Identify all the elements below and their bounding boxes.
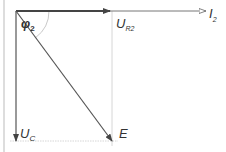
phi-angle-arc: [36, 11, 49, 38]
ur2-label: UR2: [116, 16, 134, 32]
diagram-svg: φ2 UR2 I2 UC E: [0, 0, 226, 152]
uc-label: UC: [20, 126, 35, 143]
e-label: E: [119, 126, 128, 141]
i2-label: I2: [209, 6, 217, 23]
phasor-diagram: φ2 UR2 I2 UC E: [0, 0, 226, 152]
phi-label: φ2: [21, 16, 35, 33]
